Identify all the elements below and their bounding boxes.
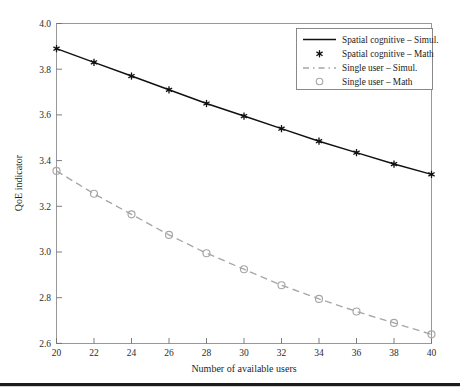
y-tick-label: 2.8 [39, 293, 51, 303]
series-dashed-line [57, 171, 432, 334]
y-tick-labels: 4.0 3.8 3.6 3.4 3.2 3.0 2.8 2.6 [39, 19, 51, 349]
y-tick-label: 2.6 [39, 339, 51, 349]
qoe-line-chart: 4.0 3.8 3.6 3.4 3.2 3.0 2.8 2.6 20 22 24… [0, 0, 460, 392]
star-marker-core [280, 127, 283, 130]
star-marker-core [318, 140, 321, 143]
series-2 [57, 171, 432, 334]
x-tick-label: 28 [202, 348, 212, 358]
y-tick-label: 3.0 [39, 247, 51, 257]
circle-marker [91, 190, 98, 197]
legend-label: Spatial cognitive – Math [342, 49, 434, 59]
series-3 [53, 167, 435, 337]
x-tick-marks [57, 338, 432, 344]
y-tick-label: 3.8 [39, 65, 51, 75]
legend-label: Single user – Simul. [342, 63, 417, 73]
star-marker-core [355, 151, 358, 154]
circle-marker [278, 282, 285, 289]
star-marker-core [55, 47, 58, 50]
x-tick-label: 20 [52, 348, 62, 358]
legend-label: Spatial cognitive – Simul. [342, 35, 439, 45]
x-tick-labels: 20 22 24 26 28 30 32 34 36 38 40 [52, 348, 437, 358]
legend-label: Single user – Math [342, 77, 413, 87]
x-tick-label: 34 [314, 348, 324, 358]
legend: Spatial cognitive – Simul. Spatial cogni… [297, 29, 439, 90]
x-tick-label: 24 [127, 348, 137, 358]
x-tick-label: 32 [277, 348, 287, 358]
star-marker-core [130, 75, 133, 78]
x-tick-label: 40 [427, 348, 437, 358]
x-tick-label: 36 [352, 348, 362, 358]
x-tick-label: 22 [89, 348, 99, 358]
x-tick-label: 38 [389, 348, 399, 358]
circle-marker [203, 250, 210, 257]
legend-star-core-icon [318, 53, 321, 56]
y-tick-label: 3.2 [39, 202, 51, 212]
star-marker-core [168, 88, 171, 91]
y-tick-marks [57, 24, 63, 344]
star-marker-core [205, 102, 208, 105]
star-marker-core [93, 61, 96, 64]
y-axis-title: QoE indicator [13, 154, 24, 211]
x-axis-title: Number of available users [191, 363, 296, 374]
x-tick-label: 26 [164, 348, 174, 358]
figure-container: 4.0 3.8 3.6 3.4 3.2 3.0 2.8 2.6 20 22 24… [0, 0, 460, 392]
y-tick-label: 3.4 [39, 156, 51, 166]
star-marker-core [430, 173, 433, 176]
circle-marker [353, 308, 360, 315]
star-marker-core [243, 115, 246, 118]
y-tick-label: 3.6 [39, 110, 51, 120]
x-tick-label: 30 [239, 348, 249, 358]
star-marker-core [393, 163, 396, 166]
y-tick-label: 4.0 [39, 19, 51, 29]
